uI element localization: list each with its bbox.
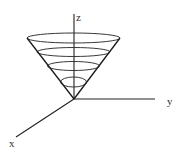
cone-diagram: z y x bbox=[0, 0, 188, 158]
x-axis-label: x bbox=[9, 137, 15, 149]
cone-figure: z y x bbox=[0, 0, 188, 158]
x-axis bbox=[16, 99, 74, 137]
z-axis-label: z bbox=[76, 11, 81, 23]
y-axis-label: y bbox=[167, 95, 173, 107]
